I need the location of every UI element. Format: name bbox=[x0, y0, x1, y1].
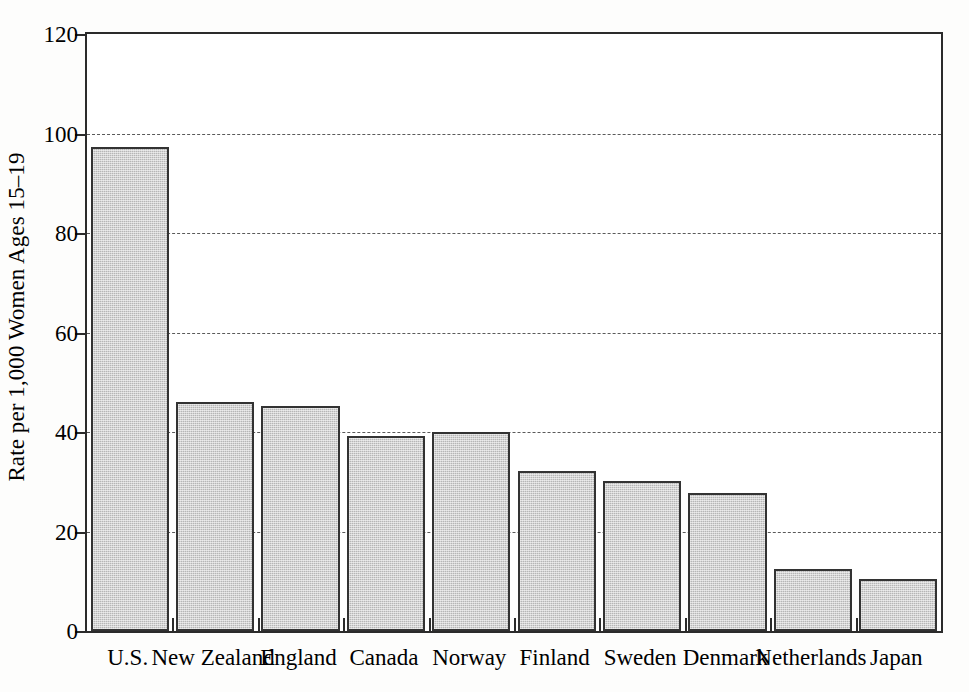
bar bbox=[859, 579, 937, 631]
plot-area: 020406080100120 bbox=[85, 32, 943, 633]
bar bbox=[774, 569, 852, 631]
x-axis-tick-label: Finland bbox=[520, 643, 590, 673]
x-axis-tick-label: Sweden bbox=[604, 643, 677, 673]
x-axis-tick-mark bbox=[685, 618, 687, 631]
x-axis-tick-mark bbox=[514, 618, 516, 631]
x-axis-tick-mark bbox=[343, 618, 345, 631]
y-axis-tick-label: 0 bbox=[67, 620, 79, 643]
x-axis-tick-label: Canada bbox=[349, 643, 418, 673]
x-axis-tick-label: Norway bbox=[432, 643, 506, 673]
x-axis-tick-mark bbox=[172, 618, 174, 631]
chart-figure: Rate per 1,000 Women Ages 15–19 02040608… bbox=[0, 0, 969, 692]
bar bbox=[432, 432, 510, 631]
x-axis-tick-mark bbox=[258, 618, 260, 631]
x-axis-tick-label: Netherlands bbox=[755, 643, 866, 673]
x-axis-tick-mark bbox=[429, 618, 431, 631]
y-axis-title: Rate per 1,000 Women Ages 15–19 bbox=[0, 0, 34, 637]
x-axis-tick-label: New Zealand bbox=[151, 643, 274, 673]
bar bbox=[688, 493, 766, 631]
y-axis-tick-label: 40 bbox=[55, 421, 78, 444]
bar bbox=[176, 402, 254, 631]
y-axis-tick-label: 100 bbox=[44, 122, 79, 145]
plot-inner: 020406080100120 bbox=[87, 34, 941, 631]
y-axis-tick-label: 20 bbox=[55, 520, 78, 543]
x-axis-tick-label: U.S. bbox=[107, 643, 148, 673]
x-axis-tick-mark bbox=[856, 618, 858, 631]
bar bbox=[603, 481, 681, 631]
gridline bbox=[87, 134, 941, 135]
x-axis-tick-label: Japan bbox=[870, 643, 922, 673]
bar bbox=[518, 471, 596, 631]
y-axis-tick-label: 80 bbox=[55, 222, 78, 245]
y-axis-tick-label: 60 bbox=[55, 321, 78, 344]
x-axis-tick-mark bbox=[770, 618, 772, 631]
bar bbox=[261, 406, 339, 631]
y-axis-tick-label: 120 bbox=[44, 23, 79, 46]
bar bbox=[347, 436, 425, 631]
gridline bbox=[87, 333, 941, 334]
gridline bbox=[87, 233, 941, 234]
bar bbox=[91, 147, 169, 631]
x-axis-tick-mark bbox=[599, 618, 601, 631]
x-axis-tick-label: England bbox=[260, 643, 337, 673]
